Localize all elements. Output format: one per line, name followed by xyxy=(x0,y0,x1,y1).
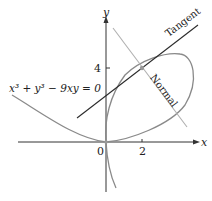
tangent-point xyxy=(140,66,144,70)
folium-curve xyxy=(12,54,193,188)
equation-label: x³ + y³ − 9xy = 0 xyxy=(9,82,101,94)
y-tick-4: 4 xyxy=(94,62,101,75)
origin-point xyxy=(104,140,108,144)
folium-diagram: y x 4 0 2 x³ + y³ − 9xy = 0 Tangent Norm… xyxy=(0,0,212,201)
x-axis-label: x xyxy=(201,136,207,149)
y-axis-label: y xyxy=(103,6,109,19)
origin-label: 0 xyxy=(97,145,104,158)
x-tick-2: 2 xyxy=(139,145,146,158)
